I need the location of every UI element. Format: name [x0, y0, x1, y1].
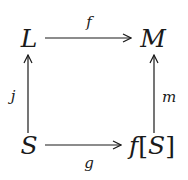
node-f-of-S: f[S] [129, 133, 175, 158]
label-f: f [86, 15, 92, 30]
label-m: m [162, 90, 176, 105]
node-S: S [20, 133, 37, 158]
node-M: M [140, 26, 166, 51]
node-f-of-S-close: ] [165, 131, 175, 160]
label-j: j [11, 89, 16, 104]
node-L: L [21, 26, 38, 51]
node-f-of-S-arg: S [148, 131, 165, 160]
node-f-of-S-open: [ [138, 131, 148, 160]
node-f-of-S-func: f [129, 131, 138, 160]
label-g: g [84, 156, 94, 171]
